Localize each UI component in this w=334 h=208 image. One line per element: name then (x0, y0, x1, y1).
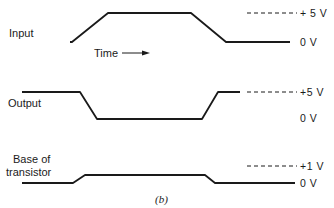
time-label: Time (94, 47, 118, 59)
base-low-level: 0 V (300, 177, 317, 189)
base-waveform (22, 175, 295, 183)
base-label-line2: transistor (6, 166, 52, 178)
input-label: Input (9, 27, 33, 39)
output-waveform (22, 92, 240, 119)
time-arrow-icon (122, 51, 150, 56)
output-high-level: +5 V (300, 86, 324, 98)
input-high-level: + 5 V (300, 7, 327, 19)
waveform-diagram: Input + 5 V 0 V Time Output +5 V 0 V Bas… (0, 0, 334, 208)
base-high-level: +1 V (300, 160, 324, 172)
base-label-line1: Base of (13, 153, 51, 165)
input-low-level: 0 V (300, 36, 317, 48)
output-label: Output (8, 97, 41, 109)
output-low-level: 0 V (300, 112, 317, 124)
figure-caption: (b) (155, 193, 168, 206)
input-waveform (70, 13, 290, 42)
